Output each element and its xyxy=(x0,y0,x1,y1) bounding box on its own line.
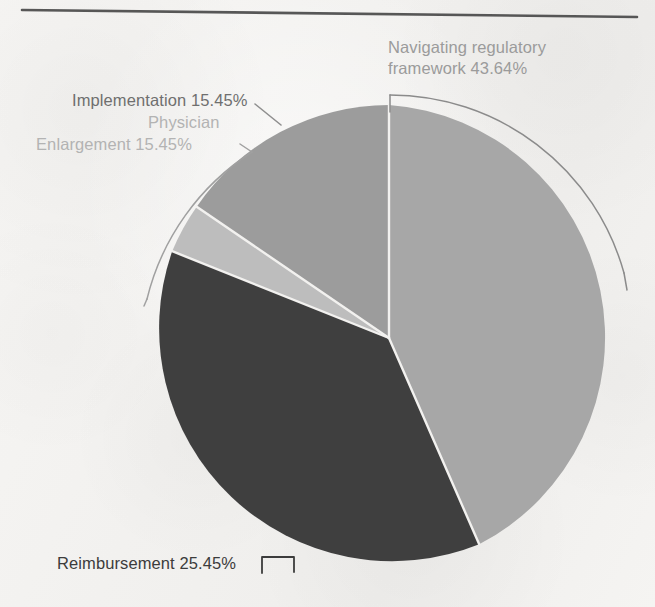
pie-label-line-2: framework 43.64% xyxy=(388,58,546,79)
top-rule xyxy=(22,10,637,17)
pie-label-implementation: Implementation 15.45% xyxy=(72,90,247,111)
leader-reimbursement xyxy=(262,557,294,573)
pie-label-physician-enlargement-line-2: Enlargement 15.45% xyxy=(36,134,192,155)
chart-page: Navigating regulatory framework 43.64% I… xyxy=(0,0,655,607)
pie-label-reimbursement: Reimbursement 25.45% xyxy=(57,553,236,574)
pie-label-navigating-regulatory-framework: Navigating regulatory framework 43.64% xyxy=(388,37,546,79)
leader-implementation xyxy=(255,104,281,125)
pie-label-line-1: Navigating regulatory xyxy=(388,37,546,58)
pie-label-physician-enlargement-line-1: Physician xyxy=(148,112,220,133)
